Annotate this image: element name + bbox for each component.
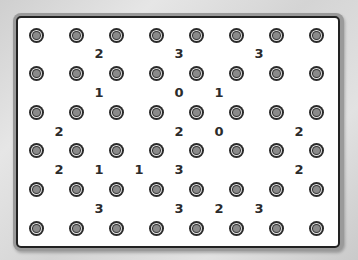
grid-dot-icon[interactable] — [189, 105, 204, 120]
grid-dot-icon[interactable] — [149, 182, 164, 197]
grid-dot-icon[interactable] — [109, 105, 124, 120]
cell-clue: 3 — [249, 201, 269, 217]
grid-dot-icon[interactable] — [69, 182, 84, 197]
grid-dot-icon[interactable] — [69, 105, 84, 120]
cell-clue: 3 — [249, 46, 269, 62]
grid-dot-icon[interactable] — [189, 182, 204, 197]
grid-dot-icon[interactable] — [29, 143, 44, 158]
grid-dot-icon[interactable] — [309, 182, 324, 197]
grid-dot-icon[interactable] — [109, 221, 124, 236]
grid-dot-icon[interactable] — [69, 143, 84, 158]
grid-dot-icon[interactable] — [309, 143, 324, 158]
grid-dot-icon[interactable] — [189, 28, 204, 43]
grid-dot-icon[interactable] — [109, 66, 124, 81]
grid-dot-icon[interactable] — [229, 143, 244, 158]
grid-dot-icon[interactable] — [69, 66, 84, 81]
cell-clue: 1 — [89, 162, 109, 178]
grid-dot-icon[interactable] — [229, 28, 244, 43]
grid-dot-icon[interactable] — [149, 66, 164, 81]
grid-dot-icon[interactable] — [269, 28, 284, 43]
grid-dot-icon[interactable] — [229, 221, 244, 236]
grid-dot-icon[interactable] — [149, 28, 164, 43]
grid-dot-icon[interactable] — [29, 66, 44, 81]
cell-clue: 0 — [169, 85, 189, 101]
grid-dot-icon[interactable] — [229, 182, 244, 197]
grid-dot-icon[interactable] — [109, 28, 124, 43]
grid-dot-icon[interactable] — [149, 105, 164, 120]
grid-dot-icon[interactable] — [29, 221, 44, 236]
grid-dot-icon[interactable] — [229, 105, 244, 120]
grid-dot-icon[interactable] — [29, 105, 44, 120]
grid-dot-icon[interactable] — [309, 28, 324, 43]
grid-dot-icon[interactable] — [149, 221, 164, 236]
grid-dot-icon[interactable] — [69, 221, 84, 236]
cell-clue: 2 — [209, 201, 229, 217]
grid-dot-icon[interactable] — [309, 105, 324, 120]
cell-clue: 3 — [169, 162, 189, 178]
cell-clue: 2 — [49, 124, 69, 140]
cell-clue: 1 — [129, 162, 149, 178]
grid-dot-icon[interactable] — [269, 105, 284, 120]
grid-dot-icon[interactable] — [269, 143, 284, 158]
cell-clue: 3 — [169, 201, 189, 217]
grid-dot-icon[interactable] — [69, 28, 84, 43]
grid-dot-icon[interactable] — [309, 66, 324, 81]
grid-dot-icon[interactable] — [229, 66, 244, 81]
grid-dot-icon[interactable] — [309, 221, 324, 236]
cell-clue: 2 — [49, 162, 69, 178]
cell-clue: 1 — [89, 85, 109, 101]
grid-dot-icon[interactable] — [189, 221, 204, 236]
cell-clue: 1 — [209, 85, 229, 101]
cell-clue: 2 — [169, 124, 189, 140]
cell-clue: 3 — [89, 201, 109, 217]
grid-dot-icon[interactable] — [269, 182, 284, 197]
grid-dot-icon[interactable] — [109, 182, 124, 197]
grid-dot-icon[interactable] — [269, 221, 284, 236]
grid-dot-icon[interactable] — [29, 182, 44, 197]
grid-dot-icon[interactable] — [29, 28, 44, 43]
grid-dot-icon[interactable] — [189, 66, 204, 81]
cell-clue: 2 — [89, 46, 109, 62]
cell-clue: 2 — [289, 162, 309, 178]
grid-dot-icon[interactable] — [109, 143, 124, 158]
grid-dot-icon[interactable] — [149, 143, 164, 158]
cell-clue: 2 — [289, 124, 309, 140]
cell-clue: 0 — [209, 124, 229, 140]
grid-dot-icon[interactable] — [189, 143, 204, 158]
grid-dot-icon[interactable] — [269, 66, 284, 81]
cell-clue: 3 — [169, 46, 189, 62]
